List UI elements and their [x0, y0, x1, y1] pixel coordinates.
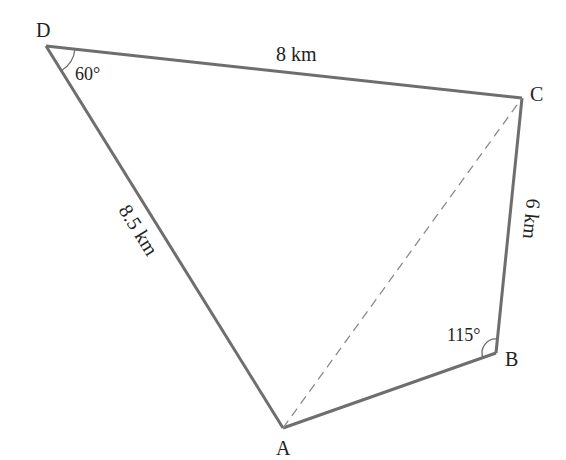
diagonal-ac: [283, 98, 522, 428]
side-label-cb: 6 km: [519, 198, 545, 241]
vertex-label-b: B: [505, 348, 518, 370]
side-ad: [46, 46, 283, 428]
quadrilateral-diagram: D C B A 60° 115° 8 km 6 km 8.5 km: [0, 0, 566, 460]
angle-arc-d: [61, 49, 75, 71]
side-label-da: 8.5 km: [115, 200, 163, 259]
side-ba: [283, 353, 496, 428]
angle-label-b: 115°: [447, 325, 481, 345]
vertex-label-a: A: [276, 437, 291, 459]
side-cb: [496, 98, 522, 353]
angle-label-d: 60°: [75, 64, 100, 84]
quadrilateral-edges: [46, 46, 522, 428]
side-label-dc: 8 km: [276, 43, 317, 65]
vertex-label-d: D: [36, 19, 50, 41]
vertex-label-c: C: [530, 83, 543, 105]
